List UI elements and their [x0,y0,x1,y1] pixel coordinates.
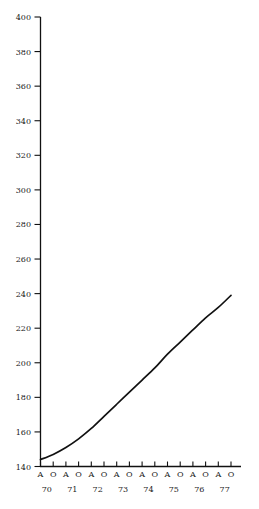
y-axis-tick-label: 160 [16,428,31,437]
x-axis-year-label: 74 [143,485,153,494]
x-axis-tick-label: O [50,470,57,479]
x-axis-tick-labels: AOAOAOAOAOAOAOAO [37,470,235,479]
x-axis-tick-label: A [62,470,69,479]
x-axis-tick-label: O [177,470,184,479]
y-axis-tick-label: 320 [16,151,31,160]
x-axis-tick-label: O [126,470,133,479]
x-axis-tick-label: A [87,470,94,479]
x-axis-year-labels: 7071727374757677 [42,485,230,494]
x-axis-tick-label: O [101,470,108,479]
x-axis-tick-label: A [138,470,145,479]
line-chart: 1401601802002202402602803003203403603804… [0,0,259,509]
x-axis-tick-label: A [113,470,120,479]
y-axis-tick-label: 200 [16,359,31,368]
y-axis-tick-label: 340 [16,117,31,126]
x-axis-year-label: 70 [42,485,52,494]
x-axis-tick-label: O [75,470,82,479]
x-axis-year-label: 72 [93,485,103,494]
y-axis-tick-label: 280 [16,220,31,229]
x-axis-tick-label: A [37,470,44,479]
x-axis-year-label: 75 [169,485,179,494]
data-series-line [41,295,232,459]
y-axis-tick-labels: 1401601802002202402602803003203403603804… [16,13,31,472]
y-axis-tick-label: 220 [16,324,31,333]
x-axis-tick-label: O [152,470,159,479]
x-axis-tick-label: A [189,470,196,479]
y-axis-tick-label: 260 [16,255,31,264]
chart-container: 1401601802002202402602803003203403603804… [0,0,259,509]
x-axis-tick-label: A [164,470,171,479]
x-axis-tick-label: O [228,470,235,479]
y-axis-tick-label: 140 [16,463,31,472]
y-axis-tick-label: 400 [16,13,31,22]
x-axis-tick-label: O [202,470,209,479]
y-axis-tick-label: 180 [16,393,31,402]
x-axis-year-label: 71 [67,485,77,494]
y-axis-tick-label: 240 [16,290,31,299]
x-axis-year-label: 76 [194,485,204,494]
y-axis-tick-label: 380 [16,48,31,57]
x-axis-year-label: 77 [220,485,230,494]
x-axis-year-label: 73 [118,485,128,494]
y-axis-tick-marks [35,17,41,467]
y-axis-tick-label: 360 [16,82,31,91]
x-axis-tick-label: A [214,470,221,479]
y-axis-tick-label: 300 [16,186,31,195]
x-axis-tick-marks [41,462,232,467]
